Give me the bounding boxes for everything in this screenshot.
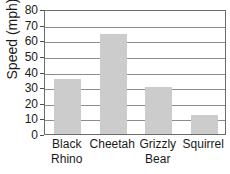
gridline xyxy=(45,27,225,28)
y-axis-tick-mark xyxy=(40,10,44,11)
x-axis-label-line: Squirrel xyxy=(181,137,227,152)
x-axis-label-line: Grizzly xyxy=(135,137,181,152)
y-axis-tick-mark xyxy=(40,57,44,58)
x-axis-label-line: Rhino xyxy=(44,152,90,167)
gridline xyxy=(45,58,225,59)
y-axis-tick-label: 40 xyxy=(14,68,38,78)
y-axis-tick-mark xyxy=(40,119,44,120)
y-axis-tick-label: 80 xyxy=(14,5,38,15)
y-axis-tick-label: 0 xyxy=(14,130,38,140)
y-axis-tick-label: 30 xyxy=(14,83,38,93)
gridline xyxy=(45,42,225,43)
x-axis-label-line: Bear xyxy=(135,152,181,167)
bar-squirrel xyxy=(191,115,218,134)
y-axis-tick-label: 10 xyxy=(14,114,38,124)
x-axis-label-cheetah: Cheetah xyxy=(90,137,136,152)
x-axis-label-line: Cheetah xyxy=(90,137,136,152)
gridline xyxy=(45,74,225,75)
x-axis-label-line: Black xyxy=(44,137,90,152)
x-axis-label-squirrel: Squirrel xyxy=(181,137,227,152)
y-axis-tick-label: 60 xyxy=(14,36,38,46)
y-axis-tick-label: 20 xyxy=(14,99,38,109)
x-axis-label-black-rhino: BlackRhino xyxy=(44,137,90,167)
y-axis-tick-mark xyxy=(40,104,44,105)
plot-area xyxy=(44,10,226,135)
y-axis-tick-labels: 80706050403020100 xyxy=(14,10,38,135)
y-axis-tick-label: 50 xyxy=(14,52,38,62)
y-axis-tick-mark xyxy=(40,135,44,136)
bar-grizzly-bear xyxy=(145,87,172,134)
y-axis-tick-mark xyxy=(40,26,44,27)
y-axis-tick-mark xyxy=(40,41,44,42)
y-axis-tick-label: 70 xyxy=(14,21,38,31)
x-axis-label-grizzly-bear: GrizzlyBear xyxy=(135,137,181,167)
bar-cheetah xyxy=(100,34,127,134)
x-axis-tick-labels: BlackRhinoCheetahGrizzlyBearSquirrel xyxy=(44,137,226,173)
bar-chart: of Mammals Speed (mph) 80706050403020100… xyxy=(0,0,230,174)
y-axis-tick-mark xyxy=(40,88,44,89)
bar-black-rhino xyxy=(54,79,81,134)
y-axis-tick-mark xyxy=(40,73,44,74)
